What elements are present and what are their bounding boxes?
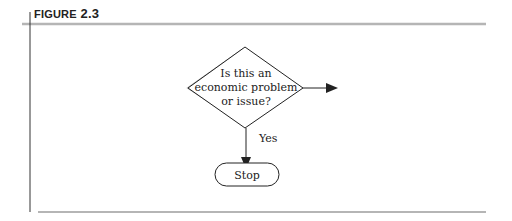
right-arrowhead-icon [326, 83, 338, 93]
decision-line-2: economic problem [194, 81, 298, 94]
decision-line-3: or issue? [221, 95, 271, 108]
figure-canvas: Is this an economic problem or issue? Ye… [0, 0, 512, 221]
decision-line-1: Is this an [220, 67, 271, 80]
stop-label: Stop [234, 169, 260, 182]
yes-label: Yes [258, 132, 278, 145]
